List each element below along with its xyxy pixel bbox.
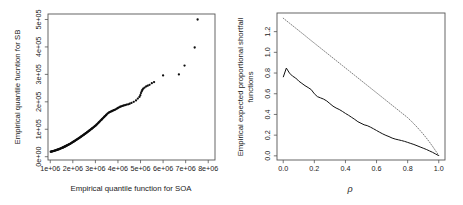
- y-tick-label: 0.6: [263, 89, 272, 99]
- x-tick-label: 1e+06: [40, 164, 60, 173]
- qq-plot-svg: 1e+062e+063e+064e+065e+066e+067e+068e+06…: [0, 0, 232, 205]
- x-tick-label: 1.0: [434, 164, 444, 173]
- shortfall-plot-svg: 0.00.20.40.60.81.00.00.20.40.60.81.01.2 …: [232, 0, 463, 205]
- shortfall-plot-series: [283, 18, 439, 155]
- data-point: [139, 94, 141, 96]
- x-axis-title-right: ρ: [346, 184, 352, 194]
- y-axis-title-left: Empirical quantile fucntion for SB: [13, 30, 22, 145]
- x-tick-label: 3e+06: [85, 164, 105, 173]
- y-tick-label: 0.8: [263, 68, 272, 78]
- x-tick-label: 7e+06: [176, 164, 196, 173]
- y-tick-label: 5e+05: [34, 9, 43, 29]
- x-tick-label: 5e+06: [130, 164, 150, 173]
- data-point: [183, 64, 185, 66]
- data-point: [148, 84, 150, 86]
- x-tick-label: 4e+06: [108, 164, 128, 173]
- figure-container: 1e+062e+063e+064e+065e+066e+067e+068e+06…: [0, 0, 463, 205]
- data-point: [196, 18, 198, 20]
- x-tick-label: 8e+06: [198, 164, 218, 173]
- data-point: [162, 74, 164, 76]
- y-tick-label: 3e+05: [34, 64, 43, 84]
- shortfall-plot-axes: 0.00.20.40.60.81.00.00.20.40.60.81.01.2: [263, 13, 445, 173]
- data-point: [194, 46, 196, 48]
- data-point: [133, 101, 135, 103]
- x-tick-label: 0.8: [403, 164, 413, 173]
- y-tick-label: 4e+05: [34, 37, 43, 57]
- y-tick-label: 1.0: [263, 47, 272, 57]
- x-tick-label: 0.0: [278, 164, 288, 173]
- y-tick-label: 2e+05: [34, 92, 43, 112]
- qq-plot-points: [50, 18, 199, 153]
- x-tick-label: 0.4: [340, 164, 350, 173]
- data-point: [153, 81, 155, 83]
- x-tick-label: 0.6: [372, 164, 382, 173]
- y-tick-label: 0.2: [263, 130, 272, 140]
- data-point: [151, 82, 153, 84]
- y-tick-label: 0.0: [263, 151, 272, 161]
- series-line-solid-lower: [283, 68, 439, 156]
- data-point: [135, 99, 137, 101]
- data-point: [130, 102, 132, 104]
- y-tick-label: 1.2: [263, 27, 272, 37]
- x-tick-label: 6e+06: [153, 164, 173, 173]
- panel-qq-plot: 1e+062e+063e+064e+065e+066e+067e+068e+06…: [0, 0, 232, 205]
- y-tick-label: 0.4: [263, 109, 272, 119]
- y-axis-title-right-line2: functions: [246, 71, 255, 102]
- x-axis-title-left: Empirical quantile function for SOA: [71, 184, 193, 193]
- panel-shortfall-plot: 0.00.20.40.60.81.00.00.20.40.60.81.01.2 …: [232, 0, 463, 205]
- data-point: [178, 73, 180, 75]
- x-tick-label: 0.2: [309, 164, 319, 173]
- y-axis-title-right-line1: Empirical expected proportional shortfal…: [236, 17, 245, 156]
- y-tick-label: 0e+00: [34, 147, 43, 167]
- x-tick-label: 2e+06: [63, 164, 83, 173]
- y-tick-label: 1e+05: [34, 119, 43, 139]
